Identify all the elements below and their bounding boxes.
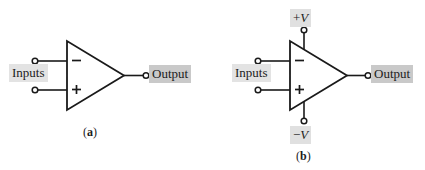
a-caption-close-paren: ) xyxy=(93,125,97,139)
b-output-label: Output xyxy=(371,65,413,83)
opamp-figure: Inputs Output (a) Inputs Output +V −V (b… xyxy=(0,0,425,170)
b-negative-supply-symbol: V xyxy=(300,127,308,142)
b-opamp-triangle-icon xyxy=(290,41,347,110)
b-caption-close-paren: ) xyxy=(307,149,311,163)
b-positive-supply-terminal-icon[interactable] xyxy=(301,27,307,33)
a-noninverting-input-terminal-icon[interactable] xyxy=(32,87,38,93)
panel-b-caption: (b) xyxy=(296,150,311,162)
panel-a-schematic xyxy=(32,41,149,110)
b-noninverting-input-terminal-icon[interactable] xyxy=(255,87,261,93)
b-inverting-input-terminal-icon[interactable] xyxy=(255,58,261,64)
a-inputs-label: Inputs xyxy=(9,64,48,82)
b-caption-letter: b xyxy=(300,149,307,163)
a-inverting-input-terminal-icon[interactable] xyxy=(32,58,38,64)
b-positive-supply-label: +V xyxy=(290,9,311,27)
b-negative-supply-label: −V xyxy=(290,126,311,144)
panel-b-schematic xyxy=(255,27,371,124)
b-positive-supply-symbol: V xyxy=(300,10,308,25)
a-opamp-triangle-icon xyxy=(67,41,124,110)
b-negative-supply-terminal-icon[interactable] xyxy=(301,118,307,124)
b-inputs-label: Inputs xyxy=(232,64,271,82)
a-output-label: Output xyxy=(149,65,191,83)
b-output-terminal-icon[interactable] xyxy=(365,73,371,79)
opamp-schematic-canvas xyxy=(0,0,425,170)
a-output-terminal-icon[interactable] xyxy=(143,73,149,79)
panel-a-caption: (a) xyxy=(83,126,97,138)
